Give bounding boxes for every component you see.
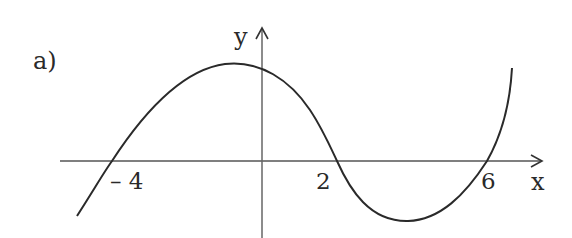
x-tick-label: 2	[316, 168, 331, 194]
function-curve	[77, 63, 512, 221]
panel-label: a)	[33, 47, 57, 75]
y-axis-label: y	[233, 23, 248, 51]
x-axis-label: x	[531, 168, 545, 196]
x-tick-label: – 4	[110, 168, 143, 194]
cubic-graph: a) y x – 4 2 6	[0, 0, 572, 238]
x-tick-label: 6	[481, 168, 496, 194]
